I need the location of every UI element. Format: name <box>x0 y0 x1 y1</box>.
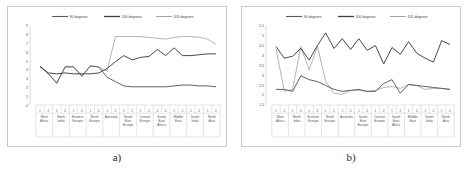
x-subtick-label: 2 <box>399 109 401 113</box>
y-tick: 1 <box>26 95 28 99</box>
x-subtick-label: 1 <box>275 109 277 113</box>
x-category-label: Africa <box>392 123 401 127</box>
legend-label-105: 105 degrees <box>408 15 428 19</box>
y-tick: 4.5 <box>259 44 264 48</box>
x-category-label: India <box>293 119 300 123</box>
chart-b-yaxis: 5.5 5 4.5 4 3.5 3 2.5 2 1.5 <box>259 24 266 107</box>
chart-a-plot-lines <box>40 37 216 87</box>
chart-b-svg: 90 degrees 100 degrees 105 degrees 5.5 5… <box>242 7 460 146</box>
chart-a-svg: 90 degrees 100 degrees 105 degrees 9 8 7… <box>8 7 226 146</box>
x-subtick-label: 2 <box>47 109 49 113</box>
x-category-label: India <box>57 119 64 123</box>
x-subtick-label: 2 <box>215 109 217 113</box>
x-subtick-label: 1 <box>308 109 310 113</box>
legend-label-100: 100 degrees <box>122 15 142 19</box>
x-subtick-label: 1 <box>173 109 175 113</box>
y-tick: 3 <box>26 77 28 81</box>
x-subtick-label: 1 <box>73 109 75 113</box>
x-subtick-label: 1 <box>325 109 327 113</box>
y-tick: 9 <box>26 24 28 28</box>
x-subtick-label: 2 <box>165 109 167 113</box>
legend-label-100: 100 degrees <box>356 15 376 19</box>
y-tick: 8 <box>26 33 28 37</box>
panel-a-caption: a) <box>113 152 122 163</box>
x-subtick-label: 1 <box>89 109 91 113</box>
chart-b-frame: 90 degrees 100 degrees 105 degrees 5.5 5… <box>241 6 461 147</box>
x-subtick-label: 2 <box>350 109 352 113</box>
x-category-label: Europe <box>89 119 100 123</box>
x-subtick-label: 2 <box>283 109 285 113</box>
x-subtick-label: 2 <box>64 109 66 113</box>
x-subtick-label: 2 <box>148 109 150 113</box>
x-category-label: Europe <box>123 123 134 127</box>
x-category-label: Europe <box>358 123 369 127</box>
x-subtick-label: 2 <box>366 109 368 113</box>
x-subtick-label: 1 <box>358 109 360 113</box>
series-line-105-degrees <box>40 37 216 83</box>
y-tick: 2.5 <box>259 84 264 88</box>
x-subtick-label: 1 <box>140 109 142 113</box>
x-subtick-label: 2 <box>383 109 385 113</box>
x-category-label: Europe <box>374 119 385 123</box>
x-subtick-label: 2 <box>182 109 184 113</box>
series-line-90-degrees <box>276 76 450 94</box>
x-subtick-label: 2 <box>198 109 200 113</box>
x-subtick-label: 1 <box>375 109 377 113</box>
x-category-label: Europe <box>325 119 336 123</box>
x-subtick-label: 2 <box>317 109 319 113</box>
x-category-label: Africa <box>276 119 285 123</box>
x-subtick-label: 1 <box>424 109 426 113</box>
x-category-label: Asia <box>209 119 216 123</box>
legend-label-105: 105 degrees <box>174 15 194 19</box>
panel-b: 90 degrees 100 degrees 105 degrees 5.5 5… <box>234 0 468 179</box>
chart-b-plot-lines <box>276 33 450 94</box>
y-tick: 4 <box>26 68 28 72</box>
x-subtick-label: 2 <box>333 109 335 113</box>
x-category-label: Europe <box>308 119 319 123</box>
x-subtick-label: 2 <box>131 109 133 113</box>
y-tick: 7 <box>26 42 28 46</box>
x-category-label: East <box>409 119 416 123</box>
y-tick: 1.5 <box>259 103 264 107</box>
chart-a-legend: 90 degrees 100 degrees 105 degrees <box>52 15 194 19</box>
y-tick: 5 <box>26 60 28 64</box>
x-category-label: Africa <box>157 123 166 127</box>
series-line-100-degrees <box>40 48 216 74</box>
y-tick: 3 <box>262 74 264 78</box>
x-subtick-label: 1 <box>190 109 192 113</box>
x-subtick-label: 2 <box>449 109 451 113</box>
legend-label-90: 90 degrees <box>304 15 322 19</box>
y-tick-labels: 5.5 5 4.5 4 3.5 3 2.5 2 1.5 <box>259 24 264 107</box>
y-tick: 5.5 <box>259 24 264 28</box>
chart-a-yaxis: 9 8 7 6 5 4 3 2 1 0 <box>26 24 30 107</box>
y-tick: 4 <box>262 54 264 58</box>
x-category-label: Europe <box>139 119 150 123</box>
y-tick: 0 <box>26 104 28 108</box>
figure-container: 90 degrees 100 degrees 105 degrees 9 8 7… <box>0 0 468 179</box>
x-category-label: Europe <box>72 119 83 123</box>
chart-b-xaxis: 12WestAfrica12NorthIndia12EasternEurope1… <box>272 105 454 137</box>
x-subtick-label: 1 <box>441 109 443 113</box>
chart-b-legend: 90 degrees 100 degrees 105 degrees <box>286 15 428 19</box>
series-line-90-degrees <box>40 66 216 87</box>
y-tick: 2 <box>262 93 264 97</box>
x-category-label: Australia <box>105 115 118 119</box>
x-subtick-label: 2 <box>416 109 418 113</box>
x-category-label: India <box>191 119 198 123</box>
y-tick-labels: 9 8 7 6 5 4 3 2 1 0 <box>26 24 28 107</box>
x-category-label: India <box>426 119 433 123</box>
chart-a-xaxis: 12WestAfrica12NorthIndia12EasternEurope1… <box>36 105 220 137</box>
panel-a: 90 degrees 100 degrees 105 degrees 9 8 7… <box>0 0 234 179</box>
x-subtick-label: 1 <box>156 109 158 113</box>
y-tick: 5 <box>262 34 264 38</box>
x-subtick-label: 1 <box>292 109 294 113</box>
chart-a-frame: 90 degrees 100 degrees 105 degrees 9 8 7… <box>7 6 227 147</box>
panel-b-caption: b) <box>346 152 355 163</box>
x-subtick-label: 2 <box>300 109 302 113</box>
x-subtick-label: 1 <box>341 109 343 113</box>
x-subtick-label: 1 <box>123 109 125 113</box>
x-subtick-label: 1 <box>207 109 209 113</box>
x-category-label: Australia <box>340 115 353 119</box>
series-line-105-degrees <box>276 47 450 95</box>
x-subtick-label: 2 <box>433 109 435 113</box>
